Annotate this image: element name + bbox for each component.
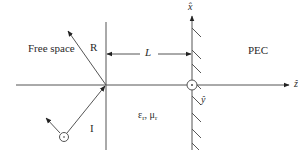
medium-parameters-label: εr, μr — [138, 110, 157, 122]
z-axis-label: ẑ — [294, 79, 298, 89]
incident-ray-label: I — [90, 123, 94, 134]
incident-ray — [67, 86, 105, 133]
reflected-ray — [68, 31, 106, 85]
diagram-graphics — [0, 0, 307, 158]
free-space-label: Free space — [28, 43, 75, 54]
diagram-canvas: Free space R L PEC x̂ ẑ ŷ I εr, μr — [0, 0, 307, 158]
reflected-ray-label: R — [90, 42, 97, 53]
pec-label: PEC — [248, 45, 268, 56]
x-axis-label: x̂ — [188, 2, 192, 12]
incident-source-icon — [46, 118, 69, 142]
y-axis-out-of-page-icon — [187, 80, 197, 90]
mu-subscript: r — [155, 114, 157, 122]
y-axis-label: ŷ — [201, 95, 205, 105]
length-label: L — [145, 47, 151, 58]
